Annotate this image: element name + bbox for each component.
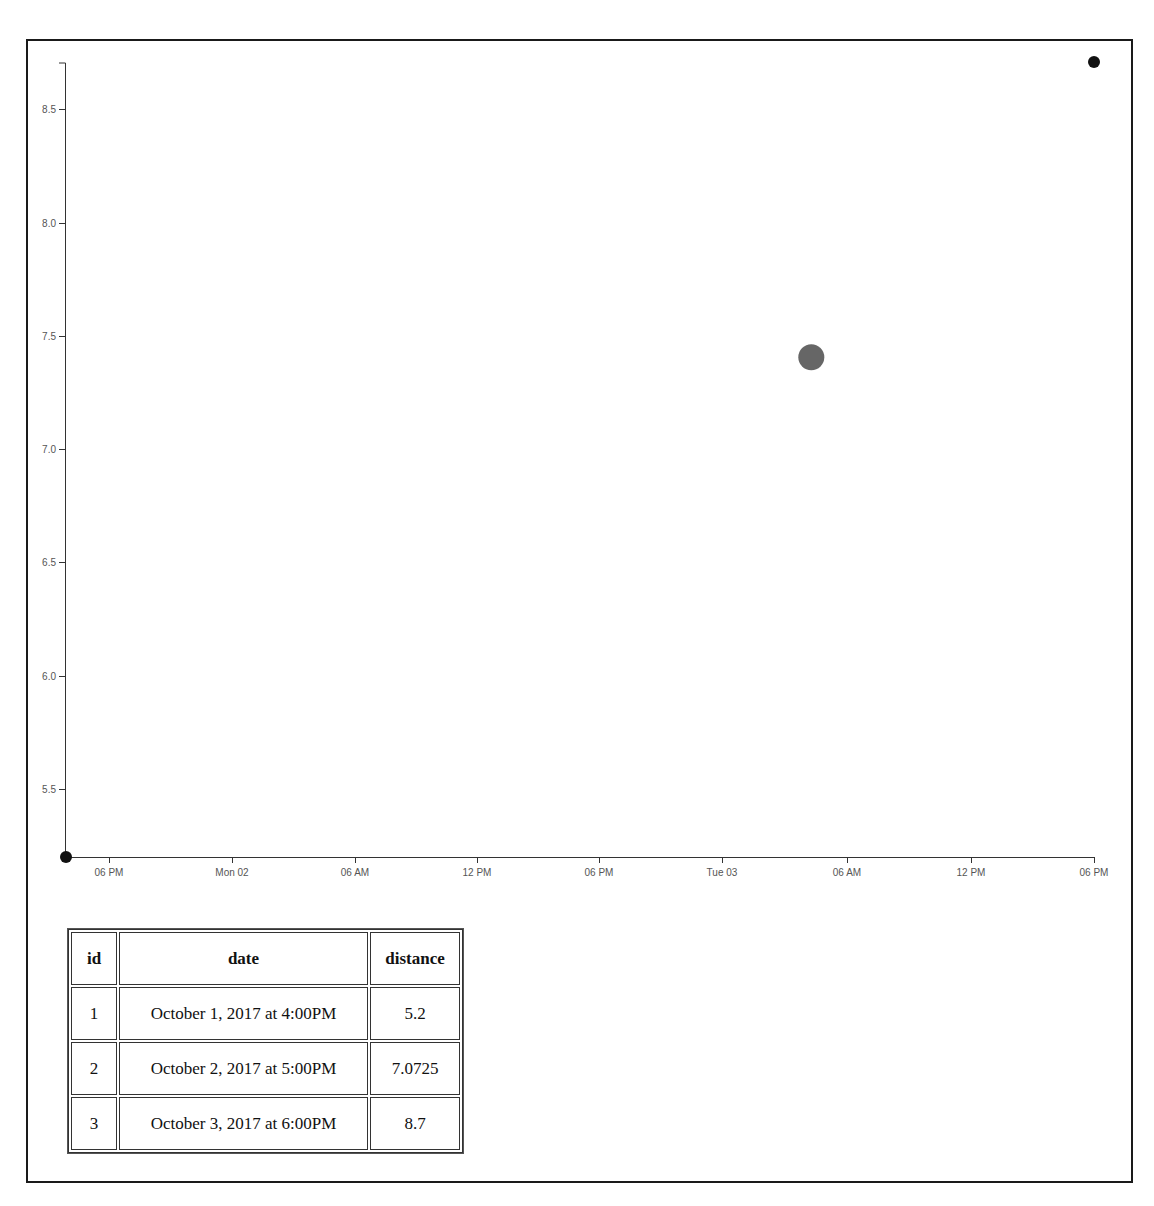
x-axis-line	[66, 858, 1095, 864]
data-point[interactable]	[798, 344, 824, 370]
x-tick-label: 06 AM	[833, 867, 861, 878]
x-tick-label: 06 PM	[1080, 867, 1109, 878]
y-tick: 8.0	[42, 218, 65, 229]
x-tick: Tue 03	[707, 857, 738, 878]
header-distance: distance	[370, 932, 460, 985]
x-tick-label: 12 PM	[463, 867, 492, 878]
table-row: 1 October 1, 2017 at 4:00PM 5.2	[71, 987, 460, 1040]
table-header-row: id date distance	[71, 932, 460, 985]
cell-distance: 8.7	[370, 1097, 460, 1150]
table-row: 2 October 2, 2017 at 5:00PM 7.0725	[71, 1042, 460, 1095]
x-tick: 06 PM	[1080, 857, 1109, 878]
x-tick-label: Tue 03	[707, 867, 738, 878]
x-tick: Mon 02	[215, 857, 249, 878]
y-axis: 8.58.07.57.06.56.05.5	[42, 63, 65, 857]
y-tick-label: 5.5	[42, 784, 56, 795]
x-tick-label: 06 AM	[341, 867, 369, 878]
cell-id: 1	[71, 987, 117, 1040]
x-tick: 12 PM	[957, 857, 986, 878]
y-tick-label: 6.5	[42, 557, 56, 568]
x-tick: 06 AM	[341, 857, 369, 878]
cell-distance: 7.0725	[370, 1042, 460, 1095]
y-tick-label: 7.0	[42, 444, 56, 455]
cell-date: October 3, 2017 at 6:00PM	[119, 1097, 368, 1150]
x-tick: 06 PM	[95, 857, 124, 878]
y-tick-label: 8.0	[42, 218, 56, 229]
data-table: id date distance 1 October 1, 2017 at 4:…	[68, 929, 463, 1153]
x-tick: 06 PM	[585, 857, 614, 878]
header-id: id	[71, 932, 117, 985]
x-tick-label: 06 PM	[95, 867, 124, 878]
x-axis: 06 PMMon 0206 AM12 PM06 PMTue 0306 AM12 …	[66, 857, 1109, 878]
scatter-chart: 8.58.07.57.06.56.05.5 06 PMMon 0206 AM12…	[0, 0, 1154, 900]
data-point[interactable]	[1088, 56, 1100, 68]
y-tick-label: 7.5	[42, 331, 56, 342]
cell-id: 2	[71, 1042, 117, 1095]
y-tick: 6.0	[42, 671, 65, 682]
header-date: date	[119, 932, 368, 985]
y-axis-line	[59, 63, 66, 857]
cell-date: October 2, 2017 at 5:00PM	[119, 1042, 368, 1095]
y-tick: 7.5	[42, 331, 65, 342]
data-points	[60, 56, 1100, 863]
data-point[interactable]	[60, 851, 72, 863]
y-tick: 8.5	[42, 104, 65, 115]
x-tick: 06 AM	[833, 857, 861, 878]
y-tick-label: 8.5	[42, 104, 56, 115]
x-tick-label: 06 PM	[585, 867, 614, 878]
cell-distance: 5.2	[370, 987, 460, 1040]
x-tick-label: Mon 02	[215, 867, 249, 878]
cell-id: 3	[71, 1097, 117, 1150]
y-tick: 6.5	[42, 557, 65, 568]
y-tick: 7.0	[42, 444, 65, 455]
y-tick-label: 6.0	[42, 671, 56, 682]
x-tick: 12 PM	[463, 857, 492, 878]
cell-date: October 1, 2017 at 4:00PM	[119, 987, 368, 1040]
x-tick-label: 12 PM	[957, 867, 986, 878]
y-tick: 5.5	[42, 784, 65, 795]
table-row: 3 October 3, 2017 at 6:00PM 8.7	[71, 1097, 460, 1150]
